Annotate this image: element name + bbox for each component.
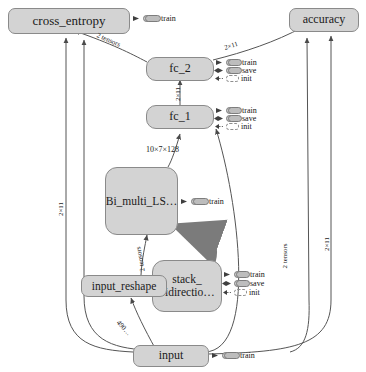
op-badge-stackbidir-save[interactable]: save	[222, 279, 264, 288]
edge-label-fc1-to-fc2: 2×11	[174, 87, 182, 101]
node-label: input	[159, 349, 184, 362]
tensor-stack-icon	[143, 15, 159, 22]
node-label: stack_ bidirectio…	[159, 273, 215, 299]
arrow-icon	[216, 107, 224, 114]
node-fc-1[interactable]: fc_1	[146, 105, 214, 129]
op-badge-label: train	[250, 270, 265, 279]
op-badge-stackbidir-init[interactable]: init	[223, 288, 260, 297]
edge-label-text: 10×7×128	[146, 145, 179, 154]
edge-label-text: 2×11	[57, 202, 65, 216]
tensor-stack-icon	[226, 59, 240, 66]
edge-fc2-to-cross-entropy	[75, 31, 147, 62]
edge-label-input-to-accuracy: 2×11	[323, 237, 331, 251]
op-badge-label: train	[161, 14, 176, 23]
op-badge-label: train	[240, 351, 255, 360]
edges-layer	[0, 0, 366, 372]
arrow-icon	[212, 352, 220, 359]
arrow-icon	[216, 59, 224, 66]
dashed-arrow-icon	[215, 123, 224, 130]
tensor-stack-icon	[226, 107, 240, 114]
node-label: input_reshape	[92, 280, 157, 293]
arrow-icon	[181, 198, 189, 205]
edge-label-input-to-cross-entropy: 2×11	[57, 202, 65, 216]
node-label: accuracy	[303, 13, 346, 26]
tensor-stack-icon	[222, 352, 238, 359]
double-arrow-icon	[222, 280, 232, 287]
node-accuracy[interactable]: accuracy	[289, 8, 359, 32]
node-bi-multi-lstm[interactable]: Bi_multi_LS…	[105, 167, 178, 235]
op-badge-fc2-init[interactable]: init	[215, 74, 252, 83]
arrow-icon	[133, 15, 141, 22]
node-label: fc_1	[169, 110, 190, 123]
edge-input-to-accuracy	[208, 36, 331, 354]
tensor-stack-icon	[234, 280, 248, 287]
tensor-stack-icon	[226, 67, 240, 74]
op-badge-label: init	[241, 122, 252, 131]
node-cross-entropy[interactable]: cross_entropy	[8, 8, 130, 34]
op-badge-label: init	[249, 288, 260, 297]
op-badge-cross-entropy-train[interactable]: train	[133, 14, 176, 23]
edge-stackbidir-to-bilstm-highlight	[192, 232, 214, 262]
node-input-reshape[interactable]: input_reshape	[81, 275, 167, 297]
tensor-stack-icon	[226, 115, 240, 122]
node-label: Bi_multi_LS…	[106, 195, 178, 208]
node-label: cross_entropy	[33, 14, 106, 29]
node-label: fc_2	[169, 62, 190, 75]
op-badge-fc1-init[interactable]: init	[215, 122, 252, 131]
dashed-arrow-icon	[215, 75, 224, 82]
tensor-stack-dashed-icon	[226, 123, 239, 130]
tensor-stack-icon	[234, 271, 248, 278]
node-fc-2[interactable]: fc_2	[146, 57, 214, 81]
edge-label-bilstm-to-fc1: 10×7×128	[146, 145, 179, 154]
op-badge-label: init	[241, 74, 252, 83]
double-arrow-icon	[214, 67, 224, 74]
double-arrow-icon	[214, 115, 224, 122]
arrow-icon	[224, 271, 232, 278]
op-badge-label: save	[250, 279, 264, 288]
edge-label-right-tensors-to-accuracy: 2 tensors	[281, 243, 289, 268]
edge-right-tensors-to-accuracy	[290, 38, 309, 352]
edge-label-text: 2 tensors	[281, 243, 289, 268]
tensor-stack-dashed-icon	[234, 289, 247, 296]
tensor-stack-icon	[191, 198, 207, 205]
graph-canvas: cross_entropy accuracy fc_2 fc_1 Bi_mult…	[0, 0, 366, 372]
node-input[interactable]: input	[133, 345, 209, 367]
edge-label-text: 2×11	[174, 87, 182, 101]
op-badge-bilstm-train[interactable]: train	[181, 197, 224, 206]
edge-input-to-reshape	[131, 298, 155, 348]
tensor-stack-dashed-icon	[226, 75, 239, 82]
op-badge-label: train	[209, 197, 224, 206]
op-badge-stackbidir-train[interactable]: train	[224, 270, 265, 279]
op-badge-input-train[interactable]: train	[212, 351, 255, 360]
dashed-arrow-icon	[223, 289, 232, 296]
edge-label-text: 2×11	[323, 237, 331, 251]
